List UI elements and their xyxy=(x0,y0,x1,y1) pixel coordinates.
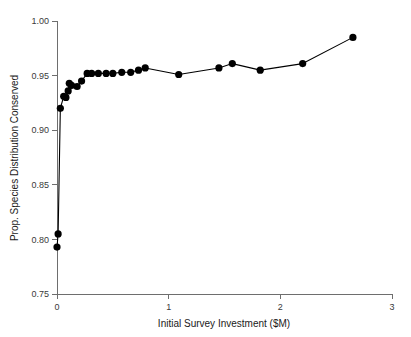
x-tick-label: 2 xyxy=(278,302,283,312)
data-point xyxy=(109,70,116,77)
y-tick-label: 0.95 xyxy=(31,71,49,81)
x-axis-ticks: 0123 xyxy=(54,294,394,312)
y-axis-title: Prop. Species Distribution Conserved xyxy=(9,75,20,241)
data-point xyxy=(55,230,62,237)
data-point xyxy=(78,77,85,84)
data-point xyxy=(62,94,69,101)
data-series xyxy=(53,34,356,251)
x-tick-label: 3 xyxy=(389,302,394,312)
chart-figure: 0.750.800.850.900.951.00 0123 Initial Su… xyxy=(0,0,411,337)
data-point xyxy=(118,69,125,76)
data-point xyxy=(299,60,306,67)
data-point xyxy=(95,70,102,77)
data-point xyxy=(135,67,142,74)
y-tick-label: 0.80 xyxy=(31,235,49,245)
series-line xyxy=(57,37,353,247)
data-point xyxy=(88,70,95,77)
data-point xyxy=(142,64,149,71)
x-axis-title: Initial Survey Investment ($M) xyxy=(158,318,290,329)
y-tick-label: 0.90 xyxy=(31,125,49,135)
x-tick-label: 0 xyxy=(54,302,59,312)
data-point xyxy=(57,105,64,112)
y-axis-ticks: 0.750.800.850.900.951.00 xyxy=(31,16,57,299)
data-point xyxy=(175,71,182,78)
y-tick-label: 0.75 xyxy=(31,289,49,299)
data-point xyxy=(103,70,110,77)
line-chart-canvas: 0.750.800.850.900.951.00 0123 Initial Su… xyxy=(0,0,411,337)
data-point xyxy=(215,64,222,71)
y-tick-label: 1.00 xyxy=(31,16,49,26)
series-markers xyxy=(53,34,356,251)
data-point xyxy=(229,60,236,67)
axes xyxy=(57,21,392,294)
x-tick-label: 1 xyxy=(166,302,171,312)
data-point xyxy=(349,34,356,41)
data-point xyxy=(127,69,134,76)
y-tick-label: 0.85 xyxy=(31,180,49,190)
data-point xyxy=(53,243,60,250)
data-point xyxy=(257,67,264,74)
